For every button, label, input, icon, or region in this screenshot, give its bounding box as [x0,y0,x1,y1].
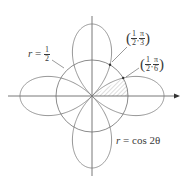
leader-r-half [52,60,64,68]
label-rose-equation: r = cos 2θ [116,135,160,146]
point-half-pi-sixth [122,77,124,79]
point-half-pi-third [109,64,111,66]
x-axis-arrow-icon [174,94,180,99]
fraction: 1 2 [44,46,50,63]
label-point-pi-third: (12,π3) [126,30,150,47]
leader-pi-third [112,47,127,62]
label-point-pi-sixth: (12,π6) [140,56,164,73]
polar-diagram [0,0,188,180]
shaded-region [92,78,128,96]
label-circle-equation: r = 1 2 [28,46,50,63]
leader-pi-sixth [126,68,139,77]
